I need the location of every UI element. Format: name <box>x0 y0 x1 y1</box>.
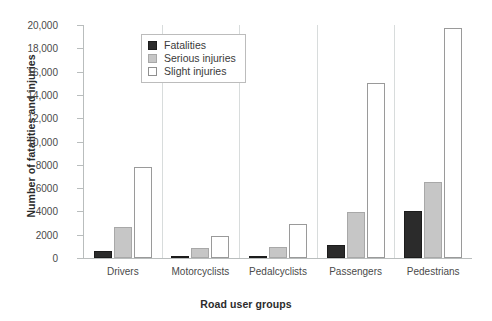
legend-item-label: Serious injuries <box>164 52 236 65</box>
bar <box>211 236 229 258</box>
x-axis-category-label: Drivers <box>107 266 139 277</box>
y-axis-tick <box>77 118 83 119</box>
bar <box>269 247 287 258</box>
chart-legend: FatalitiesSerious injuriesSlight injurie… <box>141 34 246 83</box>
x-axis-title: Road user groups <box>0 298 492 310</box>
bar <box>171 256 189 258</box>
legend-item-label: Slight injuries <box>164 65 226 78</box>
y-axis-tick-label: 16,000 <box>27 66 58 77</box>
bar <box>367 83 385 258</box>
legend-item: Serious injuries <box>148 52 236 65</box>
y-axis-tick <box>77 188 83 189</box>
y-axis-tick-label: 4000 <box>36 206 58 217</box>
serious-injuries-swatch-icon <box>148 54 157 63</box>
group-separator <box>317 25 318 258</box>
x-axis-category-label: Motorcyclists <box>171 266 229 277</box>
x-axis-category-label: Pedalcyclists <box>249 266 307 277</box>
bar <box>191 248 209 258</box>
bar <box>249 256 267 258</box>
bar <box>327 245 345 258</box>
bar <box>404 211 422 258</box>
y-axis-tick-label: 14,000 <box>27 89 58 100</box>
y-axis-tick <box>77 95 83 96</box>
bar <box>347 212 365 258</box>
bar <box>424 182 442 258</box>
y-axis-tick <box>77 142 83 143</box>
slight-injuries-swatch-icon <box>148 67 157 76</box>
x-axis-line <box>83 258 472 259</box>
y-axis-tick <box>77 258 83 259</box>
y-axis-tick <box>77 48 83 49</box>
legend-item-label: Fatalities <box>164 39 206 52</box>
bar <box>289 224 307 258</box>
y-axis-tick-label: 2000 <box>36 229 58 240</box>
y-axis-tick <box>77 72 83 73</box>
y-axis-tick-label: 10,000 <box>27 136 58 147</box>
group-separator <box>394 25 395 258</box>
bar-chart-figure: Number of fatalities and injuries 020004… <box>0 0 492 321</box>
bar <box>94 251 112 258</box>
y-axis-tick <box>77 25 83 26</box>
bar <box>444 28 462 258</box>
y-axis-line <box>83 25 84 259</box>
y-axis-tick-label: 6000 <box>36 183 58 194</box>
bar <box>134 167 152 258</box>
y-axis-tick-label: 12,000 <box>27 113 58 124</box>
bar <box>114 227 132 258</box>
y-axis-tick-label: 0 <box>52 253 58 264</box>
y-axis-tick-label: 8000 <box>36 159 58 170</box>
y-axis-tick <box>77 235 83 236</box>
x-axis-category-label: Passengers <box>329 266 382 277</box>
fatalities-swatch-icon <box>148 41 157 50</box>
y-axis-tick <box>77 165 83 166</box>
x-axis-category-label: Pedestrians <box>407 266 460 277</box>
y-axis-tick-label: 18,000 <box>27 43 58 54</box>
legend-item: Slight injuries <box>148 65 236 78</box>
y-axis-tick <box>77 211 83 212</box>
y-axis-tick-label: 20,000 <box>27 20 58 31</box>
legend-item: Fatalities <box>148 39 236 52</box>
